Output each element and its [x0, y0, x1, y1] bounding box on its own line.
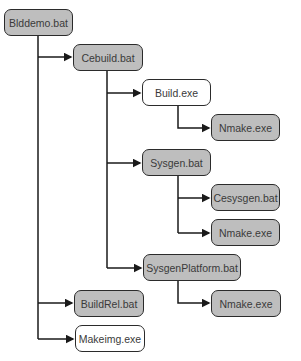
- call-tree-diagram: Blddemo.bat Cebuild.bat Build.exe Nmake.…: [0, 0, 301, 361]
- node-sysgenplatform-bat: SysgenPlatform.bat: [143, 254, 241, 281]
- node-cesysgen-bat: Cesysgen.bat: [211, 184, 280, 211]
- node-nmake-exe-2: Nmake.exe: [211, 219, 280, 246]
- node-buildrel-bat: BuildRel.bat: [74, 290, 144, 317]
- node-nmake-exe-1: Nmake.exe: [211, 114, 280, 141]
- node-sysgen-bat: Sysgen.bat: [142, 149, 211, 176]
- node-cebuild-bat: Cebuild.bat: [73, 44, 143, 71]
- node-blddemo-bat: Blddemo.bat: [4, 9, 73, 36]
- node-build-exe: Build.exe: [142, 79, 211, 106]
- node-makeimg-exe: Makeimg.exe: [75, 325, 145, 352]
- node-nmake-exe-3: Nmake.exe: [211, 290, 281, 317]
